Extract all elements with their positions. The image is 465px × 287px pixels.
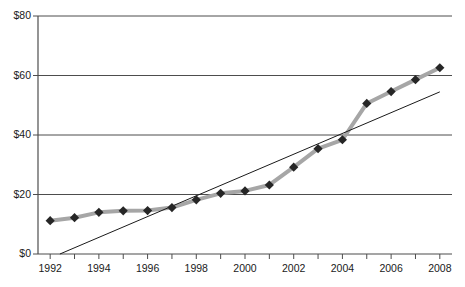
y-axis-tick-label: $40 bbox=[13, 129, 31, 140]
gridlines-group bbox=[38, 16, 452, 195]
x-axis-tick-label: 1996 bbox=[128, 263, 168, 274]
data-point-markers-group bbox=[46, 63, 445, 225]
x-axis-tick-label: 2000 bbox=[225, 263, 265, 274]
data-point-marker bbox=[119, 206, 128, 215]
y-axis-tick-label: $0 bbox=[19, 248, 31, 259]
y-axis-tick-label: $80 bbox=[13, 10, 31, 21]
x-axis-tick-label: 1994 bbox=[79, 263, 119, 274]
y-axis-tick-label: $20 bbox=[13, 189, 31, 200]
data-point-marker bbox=[46, 216, 55, 225]
x-axis-tick-label: 2004 bbox=[322, 263, 362, 274]
chart-plot-area bbox=[0, 0, 465, 287]
x-axis-tick-label: 2002 bbox=[274, 263, 314, 274]
x-axis-tick-label: 1998 bbox=[176, 263, 216, 274]
data-point-marker bbox=[216, 189, 225, 198]
x-tick-marks-group bbox=[50, 254, 440, 259]
x-axis-tick-label: 1992 bbox=[30, 263, 70, 274]
data-series-line bbox=[50, 68, 440, 221]
y-tick-marks-group bbox=[33, 16, 38, 254]
line-chart: $0$20$40$60$80 1992199419961998200020022… bbox=[0, 0, 465, 287]
data-point-marker bbox=[94, 208, 103, 217]
y-axis-tick-label: $60 bbox=[13, 70, 31, 81]
x-axis-tick-label: 2006 bbox=[371, 263, 411, 274]
data-point-marker bbox=[143, 206, 152, 215]
x-axis-tick-label: 2008 bbox=[420, 263, 460, 274]
data-point-marker bbox=[70, 213, 79, 222]
trend-line bbox=[60, 92, 440, 254]
